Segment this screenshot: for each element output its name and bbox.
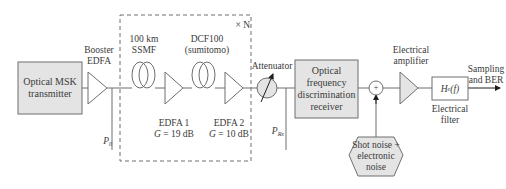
edfa1-gain: G = 19 dB xyxy=(148,129,200,140)
transmitter-label: Optical MSK transmitter xyxy=(18,62,82,114)
dcf-label: DCF100 (sumitomo) xyxy=(177,34,237,56)
noise-label-line3: noise xyxy=(366,162,386,173)
prx-tap-label: PRx xyxy=(266,126,284,140)
transmitter-label-line2: transmitter xyxy=(28,88,71,100)
transmitter-label-line1: Optical MSK xyxy=(23,76,77,88)
attenuator-label: Attenuator xyxy=(248,61,296,72)
edfa1-icon[interactable] xyxy=(165,72,183,104)
electrical-amplifier-label: Electrical amplifier xyxy=(386,45,436,67)
booster-label-line2: EDFA xyxy=(78,56,120,67)
dcf-fiber-coil-icon[interactable] xyxy=(192,62,215,88)
edfa2-gain-var: G xyxy=(209,129,216,139)
filter-label-line1: Electrical xyxy=(425,104,475,115)
system-block-diagram: Optical MSK transmitter Booster EDFA P0 … xyxy=(0,0,506,189)
edfa2-label-line1: EDFA 2 xyxy=(203,118,255,129)
amplifier-label-line1: Electrical xyxy=(386,45,436,56)
summer-plus-label: + xyxy=(369,81,383,95)
booster-edfa-label: Booster EDFA xyxy=(78,45,120,67)
output-label-line2: and BER xyxy=(466,75,506,86)
filter-arg: (f) xyxy=(450,83,459,95)
edfa2-gain-value: = 10 dB xyxy=(216,129,249,139)
p0-tap-label: P0 xyxy=(100,136,112,150)
booster-edfa-icon[interactable] xyxy=(88,72,107,104)
edfa2-gain: G = 10 dB xyxy=(203,129,255,140)
filter-symbol: H xyxy=(441,83,448,95)
electrical-amplifier-icon[interactable] xyxy=(400,72,418,104)
receiver-label: Optical frequency discrimination receive… xyxy=(295,60,358,118)
receiver-label-line3: discrimination xyxy=(298,89,356,101)
edfa2-icon[interactable] xyxy=(225,72,243,104)
amplifier-label-line2: amplifier xyxy=(386,56,436,67)
receiver-label-line1: Optical xyxy=(312,65,341,77)
receiver-label-line2: frequency xyxy=(307,77,347,89)
ssmf-label: 100 km SSMF xyxy=(122,34,166,56)
ssmf-label-line2: SSMF xyxy=(122,45,166,56)
dcf-label-line2: (sumitomo) xyxy=(177,45,237,56)
edfa1-label-line1: EDFA 1 xyxy=(148,118,200,129)
p0-subscript: 0 xyxy=(109,141,112,147)
prx-subscript: Rx xyxy=(278,131,284,137)
span-repeat-label: × N xyxy=(232,20,250,31)
edfa1-gain-var: G xyxy=(154,129,161,139)
edfa1-label: EDFA 1 G = 19 dB xyxy=(148,118,200,140)
noise-label-line1: Shot noise + xyxy=(352,140,400,151)
ssmf-label-line1: 100 km xyxy=(122,34,166,45)
edfa2-label: EDFA 2 G = 10 dB xyxy=(203,118,255,140)
output-label-line1: Sampling xyxy=(466,64,506,75)
dcf-label-line1: DCF100 xyxy=(177,34,237,45)
ssmf-fiber-coil-icon[interactable] xyxy=(132,62,155,88)
noise-label: Shot noise + electronic noise xyxy=(349,137,403,176)
edfa1-gain-value: = 19 dB xyxy=(161,129,194,139)
attenuator-icon[interactable] xyxy=(257,74,277,102)
receiver-label-line4: receiver xyxy=(310,101,342,113)
filter-label-line2: filter xyxy=(425,115,475,126)
electrical-filter-label: Electrical filter xyxy=(425,104,475,126)
sampling-ber-label: Sampling and BER xyxy=(466,64,506,86)
booster-label-line1: Booster xyxy=(78,45,120,56)
filter-transfer-function: He(f) xyxy=(432,77,468,100)
noise-label-line2: electronic xyxy=(357,151,394,162)
